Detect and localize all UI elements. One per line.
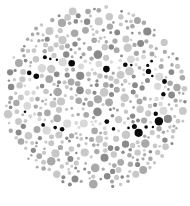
background-dot xyxy=(113,107,116,110)
background-dot xyxy=(117,159,124,166)
background-dot xyxy=(92,33,95,36)
background-dot xyxy=(13,56,16,59)
figure-dot xyxy=(103,126,107,130)
background-dot xyxy=(65,68,69,72)
background-dot xyxy=(35,159,38,162)
background-dot xyxy=(110,180,114,184)
background-dot xyxy=(108,163,111,166)
background-dot xyxy=(106,13,113,20)
background-dot xyxy=(117,71,125,79)
background-dot xyxy=(29,65,32,68)
background-dot xyxy=(138,31,141,34)
background-dot xyxy=(69,7,77,15)
background-dot xyxy=(65,151,70,156)
background-dot xyxy=(97,73,103,79)
figure-dot xyxy=(37,117,41,121)
figure-dot xyxy=(162,79,167,84)
background-dot xyxy=(21,114,24,117)
background-dot xyxy=(119,22,123,26)
figure-dot xyxy=(41,123,45,127)
background-dot xyxy=(14,109,19,114)
background-dot xyxy=(78,47,81,50)
background-dot xyxy=(90,84,93,87)
background-dot xyxy=(136,106,143,113)
background-dot xyxy=(137,40,144,47)
dot-plate xyxy=(0,0,190,206)
background-dot xyxy=(83,112,89,118)
background-dot xyxy=(32,48,37,53)
background-dot xyxy=(102,28,105,31)
background-dot xyxy=(57,158,60,161)
background-dot xyxy=(74,132,77,135)
background-dot xyxy=(8,96,13,101)
background-dot xyxy=(18,95,24,101)
figure-dot xyxy=(149,121,152,124)
background-dot xyxy=(158,145,161,148)
background-dot xyxy=(121,103,125,107)
background-dot xyxy=(13,78,16,81)
background-dot xyxy=(132,13,136,17)
background-dot xyxy=(170,107,173,110)
background-dot xyxy=(107,23,113,29)
figure-dot xyxy=(43,55,47,59)
background-dot xyxy=(90,155,93,158)
background-dot xyxy=(143,97,147,101)
background-dot xyxy=(85,89,91,95)
background-dot xyxy=(130,143,135,148)
background-dot xyxy=(84,98,88,102)
background-dot xyxy=(130,113,135,118)
background-dot xyxy=(68,182,72,186)
background-dot xyxy=(30,141,34,145)
background-dot xyxy=(27,158,29,160)
background-dot xyxy=(109,44,114,49)
background-dot xyxy=(31,33,35,37)
background-dot xyxy=(171,129,176,134)
background-dot xyxy=(121,151,124,154)
figure-dot xyxy=(132,124,137,129)
background-dot xyxy=(80,56,83,59)
background-dot xyxy=(30,39,33,42)
background-dot xyxy=(152,34,155,37)
figure-dot xyxy=(28,114,32,118)
background-dot xyxy=(80,20,83,23)
background-dot xyxy=(75,97,82,104)
background-dot xyxy=(141,139,150,148)
background-dot xyxy=(160,154,164,158)
background-dot xyxy=(96,8,101,13)
background-dot xyxy=(85,9,91,15)
background-dot xyxy=(8,79,10,81)
background-dot xyxy=(183,100,187,104)
background-dot xyxy=(148,166,152,170)
background-dot xyxy=(42,33,45,36)
background-dot xyxy=(81,52,85,56)
background-dot xyxy=(35,97,40,102)
background-dot xyxy=(87,171,91,175)
figure-dot xyxy=(91,68,94,71)
background-dot xyxy=(139,166,147,174)
background-dot xyxy=(8,84,14,90)
background-dot xyxy=(136,159,139,162)
background-dot xyxy=(25,141,28,144)
background-dot xyxy=(114,47,120,53)
background-dot xyxy=(16,130,22,136)
background-dot xyxy=(64,94,67,97)
background-dot xyxy=(8,101,11,104)
background-dot xyxy=(153,161,156,164)
figure-dot xyxy=(104,119,109,124)
background-dot xyxy=(110,169,115,174)
background-dot xyxy=(46,27,54,35)
figure-dot xyxy=(89,62,92,65)
background-dot xyxy=(111,114,115,118)
background-dot xyxy=(137,99,143,105)
figure-dot xyxy=(135,57,139,61)
background-dot xyxy=(26,38,29,41)
background-dot xyxy=(63,80,67,84)
background-dot xyxy=(103,82,109,88)
figure-dot xyxy=(135,63,138,66)
background-dot xyxy=(57,85,60,88)
background-dot xyxy=(74,51,77,54)
figure-dot xyxy=(38,64,46,72)
background-dot xyxy=(128,162,133,167)
background-dot xyxy=(20,69,26,75)
background-dot xyxy=(93,71,97,75)
